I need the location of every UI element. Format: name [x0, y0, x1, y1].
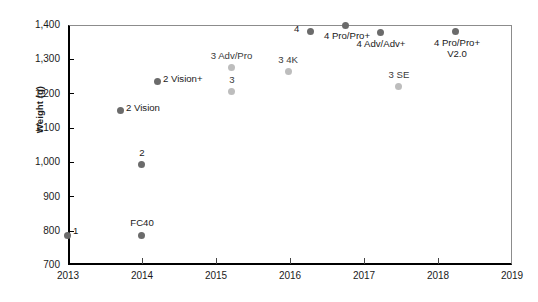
y-tick-mark-1100 [68, 128, 74, 129]
x-tick-mark-2016 [290, 258, 291, 264]
y-tick-mark-1300 [68, 59, 74, 60]
data-label-1: 1 [73, 226, 78, 237]
y-tick-label-1200: 1,200 [4, 88, 60, 99]
data-point-4-adv-adv-plus [377, 29, 384, 36]
x-tick-label-2015: 2015 [191, 270, 241, 281]
y-tick-mark-900 [68, 196, 74, 197]
x-tick-label-2013: 2013 [43, 270, 93, 281]
data-label-fc40: FC40 [117, 218, 167, 229]
data-point-fc40 [138, 232, 145, 239]
x-tick-label-2016: 2016 [265, 270, 315, 281]
data-point-4-pro-pro-plus [342, 22, 349, 29]
data-point-2-vision [117, 107, 124, 114]
y-tick-mark-1200 [68, 93, 74, 94]
y-tick-mark-1000 [68, 162, 74, 163]
data-label-4: 4 [294, 24, 299, 35]
y-tick-label-800: 800 [4, 225, 60, 236]
y-tick-label-1400: 1,400 [4, 19, 60, 30]
scatter-chart: Weight (g) 1,400 1,300 1,200 1,100 1,000… [0, 0, 538, 302]
data-label-2-vision: 2 Vision [126, 103, 160, 114]
data-point-2-vision-plus [154, 78, 161, 85]
x-tick-mark-2017 [364, 258, 365, 264]
data-point-4 [307, 28, 314, 35]
data-label-2: 2 [117, 148, 167, 159]
data-point-3 [228, 88, 235, 95]
y-tick-label-700: 700 [4, 259, 60, 270]
data-point-1 [64, 232, 71, 239]
data-label-4-adv-adv-plus: 4 Adv/Adv+ [350, 39, 412, 50]
y-tick-label-1300: 1,300 [4, 53, 60, 64]
x-tick-label-2019: 2019 [487, 270, 537, 281]
x-tick-label-2017: 2017 [339, 270, 389, 281]
x-tick-label-2018: 2018 [413, 270, 463, 281]
data-label-3: 3 [207, 75, 257, 86]
x-tick-label-2014: 2014 [117, 270, 167, 281]
y-tick-label-1100: 1,100 [4, 122, 60, 133]
data-point-2 [138, 161, 145, 168]
data-point-4-pro-pro-plus-v2 [452, 28, 459, 35]
data-point-3-adv-pro [228, 64, 235, 71]
data-label-3-4k: 3 4K [263, 55, 313, 66]
x-tick-mark-2018 [438, 258, 439, 264]
data-label-4-pro-pro-plus-v2-line1: 4 Pro/Pro+ [426, 38, 488, 49]
x-tick-mark-2014 [142, 258, 143, 264]
data-label-2-vision-plus: 2 Vision+ [163, 74, 203, 85]
data-label-3-adv-pro: 3 Adv/Pro [200, 51, 263, 62]
x-tick-mark-2015 [216, 258, 217, 264]
data-label-3-se: 3 SE [374, 70, 424, 81]
y-tick-label-1000: 1,000 [4, 156, 60, 167]
data-point-3-4k [285, 68, 292, 75]
data-point-3-se [395, 83, 402, 90]
y-axis-title: Weight (g) [34, 65, 45, 155]
data-label-4-pro-pro-plus-v2-line2: V2.0 [426, 49, 488, 60]
y-tick-label-900: 900 [4, 191, 60, 202]
